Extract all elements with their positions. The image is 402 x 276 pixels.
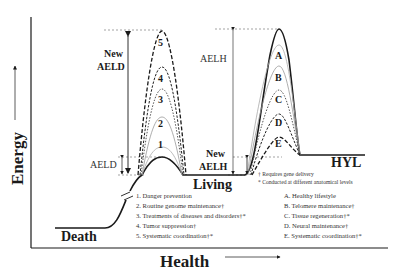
peak-label-A: A: [275, 50, 283, 61]
legend-item-C: C. Tissue regeneration†*: [284, 212, 350, 219]
legend-item-2: 2. Routine genome maintenance†: [136, 202, 225, 209]
legend-numbered: 1. Danger prevention 2. Routine genome m…: [136, 192, 246, 239]
peak-label-1: 1: [158, 139, 163, 150]
death-label: Death: [61, 229, 97, 244]
peak-label-2: 2: [158, 118, 163, 129]
y-axis-label: Energy: [8, 132, 27, 185]
legend-item-3: 3. Treatments of diseases and disorders†…: [136, 212, 246, 219]
peak-label-D: D: [275, 117, 282, 128]
footnote-anatomical: * Conducted at different anatomical leve…: [258, 179, 353, 185]
living-label: Living: [193, 177, 232, 192]
guide-lines: [104, 29, 282, 175]
hyl-label: HYL: [331, 155, 361, 170]
peak-1-curve: [142, 147, 182, 175]
new-aeld-label-line2: AELD: [97, 61, 125, 72]
break-mark-icon: [121, 192, 133, 200]
legend-item-B: B. Telomere maintenance†: [284, 202, 355, 209]
new-aelh-label-line1: New: [206, 148, 226, 159]
legend-item-D: D. Neural maintenance†: [284, 222, 349, 229]
new-aelh-label-line2: AELH: [199, 161, 228, 172]
legend-lettered: A. Healthy lifestyle B. Telomere mainten…: [284, 192, 362, 239]
legend-item-5: 5. Systematic coordination†*: [136, 232, 213, 239]
right-barrier-peaks: A B C D E: [247, 45, 300, 175]
peak-label-E: E: [275, 138, 282, 149]
aeld-label: AELD: [90, 159, 117, 170]
legend-item-E: E. Systematic coordination†*: [284, 232, 362, 239]
new-aeld-label-line1: New: [104, 48, 124, 59]
legend-item-4: 4. Tumor suppression†: [136, 222, 197, 229]
peak-label-C: C: [275, 94, 282, 105]
x-axis-label: Health: [160, 252, 210, 271]
peak-label-3: 3: [158, 94, 163, 105]
legend-item-A: A. Healthy lifestyle: [284, 192, 336, 199]
left-barrier-peaks: 1 2 3 4 5: [138, 31, 186, 175]
energy-health-diagram: Energy Health 1 2 3 4 5: [0, 0, 402, 276]
peak-A-curve: [247, 45, 300, 175]
peak-label-4: 4: [158, 73, 163, 84]
peak-label-5: 5: [158, 37, 163, 48]
footnote-gene-delivery: † Requires gene delivery: [258, 171, 314, 177]
peak-label-B: B: [275, 72, 282, 83]
legend-item-1: 1. Danger prevention: [136, 192, 193, 199]
aelh-label: AELH: [200, 53, 227, 64]
